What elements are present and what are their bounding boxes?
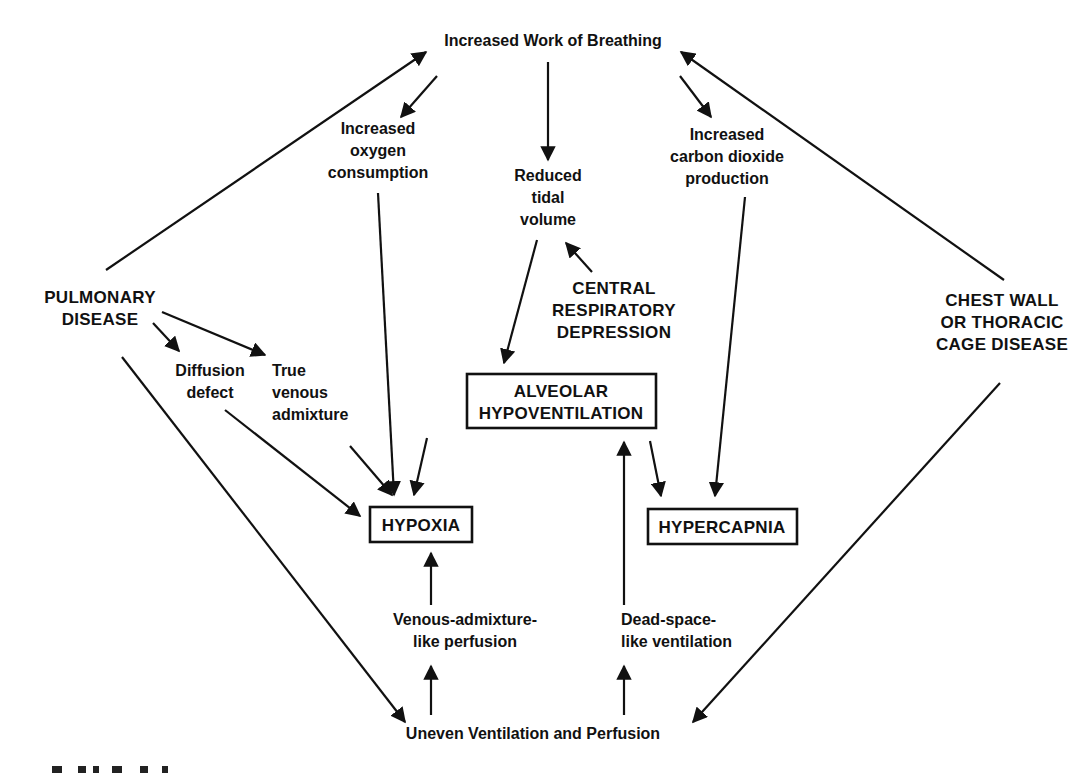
venous-line-1: True [272, 362, 306, 379]
chest-line-2: OR THORACIC [940, 313, 1063, 332]
tidal-line-1: Reduced [514, 167, 582, 184]
tidal-line-2: tidal [532, 189, 565, 206]
o2-line-1: Increased [341, 120, 416, 137]
chest-line-3: CAGE DISEASE [936, 335, 1068, 354]
node-central-respiratory-depression: CENTRAL RESPIRATORY DEPRESSION [552, 279, 676, 342]
node-tidal: Reduced tidal volume [514, 167, 582, 228]
node-o2: Increased oxygen consumption [328, 120, 428, 181]
venlike-line-1: Venous-admixture- [393, 611, 537, 628]
node-venous-admixture-like-perfusion: Venous-admixture- like perfusion [393, 611, 537, 650]
chest-line-1: CHEST WALL [945, 291, 1059, 310]
node-pulmonary-disease: PULMONARY DISEASE [44, 288, 156, 329]
diffusion-line-1: Diffusion [175, 362, 244, 379]
hypoxia-label: HYPOXIA [382, 516, 461, 535]
edge-co2-to-hypercapnia [715, 197, 745, 496]
node-work: Increased Work of Breathing [444, 32, 662, 49]
central-line-2: RESPIRATORY [552, 301, 676, 320]
edge-diffusion-to-hypoxia [225, 410, 360, 516]
diffusion-line-2: defect [186, 384, 234, 401]
edge-chest-to-uneven [693, 383, 1000, 722]
central-line-3: DEPRESSION [557, 323, 671, 342]
edge-work-to-co2 [680, 76, 711, 117]
edge-chest-to-work [681, 52, 1004, 280]
cropped-caption [52, 766, 168, 773]
node-dead-space-like-ventilation: Dead-space- like ventilation [621, 611, 732, 650]
alveolar-line-2: HYPOVENTILATION [479, 404, 644, 423]
deadspace-line-2: like ventilation [621, 633, 732, 650]
edge-pulm-to-uneven [122, 357, 405, 722]
node-chest-wall-disease: CHEST WALL OR THORACIC CAGE DISEASE [936, 291, 1068, 354]
edge-work-to-o2 [401, 76, 437, 117]
o2-line-2: oxygen [350, 142, 406, 159]
co2-line-3: production [685, 170, 769, 187]
edge-pulm-to-work [106, 52, 426, 270]
node-hypercapnia: HYPERCAPNIA [658, 518, 785, 537]
hypercapnia-label: HYPERCAPNIA [658, 518, 785, 537]
edge-alveolar-to-hypercapnia [650, 441, 661, 496]
co2-line-1: Increased [690, 126, 765, 143]
respiratory-failure-diagram: Increased Work of Breathing Increased ox… [0, 0, 1091, 773]
alveolar-line-1: ALVEOLAR [514, 382, 609, 401]
edge-central-to-tidal [566, 243, 592, 272]
uneven-label: Uneven Ventilation and Perfusion [406, 725, 660, 742]
node-hypoxia: HYPOXIA [382, 516, 461, 535]
deadspace-line-1: Dead-space- [621, 611, 716, 628]
node-diffusion-defect: Diffusion defect [175, 362, 244, 401]
edge-pulm-to-diffusion [153, 323, 179, 351]
edge-venous-to-hypoxia [350, 446, 392, 495]
central-line-1: CENTRAL [572, 279, 655, 298]
co2-line-2: carbon dioxide [670, 148, 784, 165]
edge-tidal-to-alveolar [504, 240, 537, 363]
venous-line-2: venous [272, 384, 328, 401]
tidal-line-3: volume [520, 211, 576, 228]
pulm-line-2: DISEASE [62, 310, 139, 329]
node-uneven-ventilation-perfusion: Uneven Ventilation and Perfusion [406, 725, 660, 742]
edge-o2-to-hypoxia [378, 193, 394, 495]
o2-line-3: consumption [328, 164, 428, 181]
edge-alveolar-to-hypoxia [414, 438, 427, 495]
venlike-line-2: like perfusion [413, 633, 517, 650]
pulm-line-1: PULMONARY [44, 288, 156, 307]
node-co2: Increased carbon dioxide production [670, 126, 784, 187]
work-label: Increased Work of Breathing [444, 32, 662, 49]
venous-line-3: admixture [272, 406, 349, 423]
node-true-venous-admixture: True venous admixture [272, 362, 349, 423]
